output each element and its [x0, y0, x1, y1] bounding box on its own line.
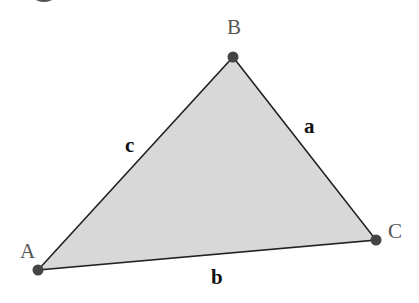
vertex-label-a: A [20, 239, 36, 263]
cropped-glyph-fragment [35, 0, 53, 2]
vertex-label-c: C [388, 219, 402, 243]
vertex-label-b: B [227, 15, 241, 39]
vertex-c-point [371, 235, 382, 246]
side-label-a: a [304, 114, 315, 138]
side-label-b: b [211, 265, 223, 289]
triangle-diagram: A B C a b c [0, 0, 419, 303]
vertex-a-point [33, 265, 44, 276]
triangle-shape [38, 57, 376, 270]
side-label-c: c [125, 133, 134, 157]
vertex-b-point [228, 52, 239, 63]
